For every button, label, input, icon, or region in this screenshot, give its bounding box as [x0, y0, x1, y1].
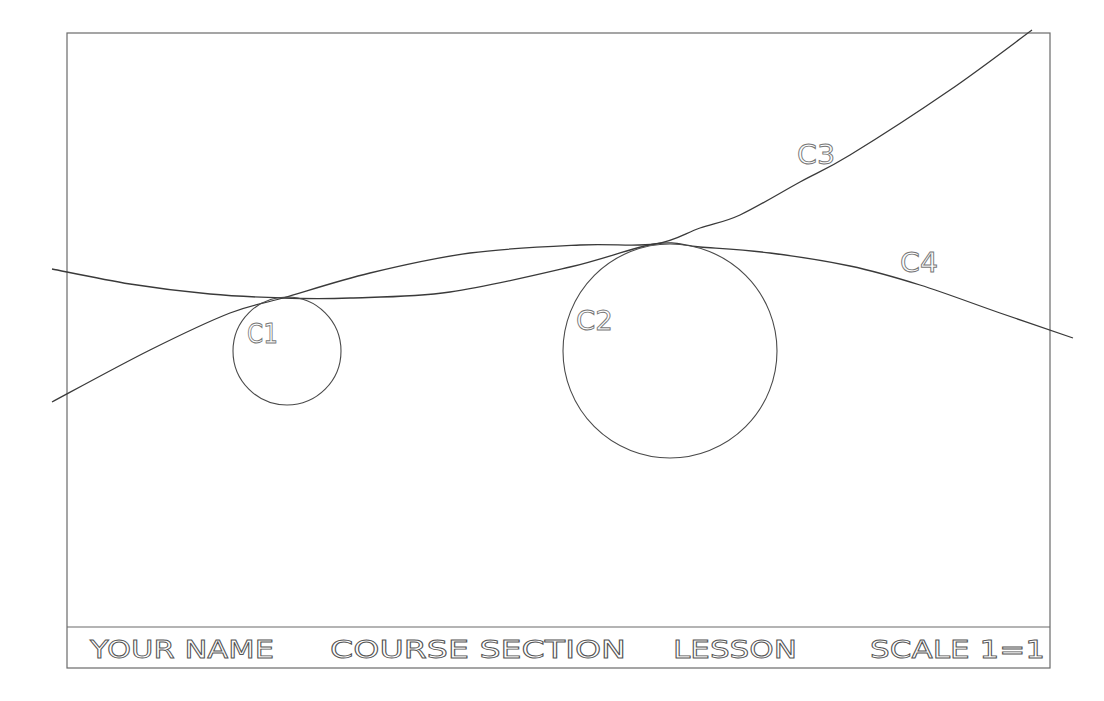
tangent-curves: [52, 30, 1073, 402]
circles: [233, 244, 777, 458]
title-block-course-section: COURSE SECTION: [330, 635, 626, 664]
title-block-lesson: LESSON: [673, 635, 797, 664]
title-block-your-name: YOUR NAME: [89, 635, 274, 664]
cad-drawing-canvas: C3C4C1C2 YOUR NAME COURSE SECTION LESSON…: [0, 0, 1104, 701]
circle-c1: [233, 297, 341, 405]
title-block: YOUR NAME COURSE SECTION LESSON SCALE 1=…: [89, 635, 1045, 664]
curve-c3: [52, 30, 1032, 402]
circle-c2: [563, 244, 777, 458]
entity-labels: C3C4C1C2: [247, 139, 938, 349]
drawing-border: [67, 33, 1050, 668]
label-c1: C1: [247, 318, 278, 349]
label-c2: C2: [576, 305, 613, 336]
label-c4: C4: [900, 247, 938, 278]
title-block-scale: SCALE 1=1: [870, 635, 1045, 664]
label-c3: C3: [797, 139, 835, 170]
